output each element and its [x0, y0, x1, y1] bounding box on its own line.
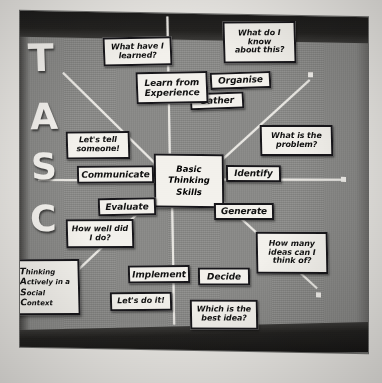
card-line: best idea? [197, 315, 252, 324]
card-label: Decide [207, 271, 241, 281]
card-label: Evaluate [105, 201, 149, 212]
acronym-rest-c: ontext [27, 299, 53, 307]
card-line: I do? [72, 234, 129, 243]
card-line: think of? [268, 257, 315, 266]
spoke-cap-east [341, 177, 346, 182]
acronym-letter-s: S [30, 149, 57, 185]
card-organise[interactable]: Organise [210, 71, 272, 90]
card-line: learned? [111, 51, 164, 61]
hub-line-2: Thinking [168, 175, 210, 185]
board-right-shadow [356, 17, 368, 353]
card-line: problem? [271, 140, 322, 149]
card-label: Communicate [81, 169, 149, 179]
card-label: Implement [132, 269, 186, 280]
spoke-cap-southeast [316, 292, 321, 297]
card-implement[interactable]: Implement [128, 265, 190, 284]
spoke-cap-northeast [308, 72, 313, 77]
card-what-do-i-know[interactable]: What do I know about this? [222, 21, 296, 64]
card-line: Experience [145, 87, 200, 98]
acronym-letter-t: T [27, 39, 54, 77]
acronym-line-social: Social [20, 288, 74, 298]
card-what-is-the-problem[interactable]: What is the problem? [260, 125, 334, 156]
acronym-letter-a: A [29, 99, 58, 135]
hub-basic-thinking-skills[interactable]: Basic Thinking Skills [154, 154, 225, 209]
card-label: Generate [221, 206, 267, 216]
acronym-letter-c: C [29, 201, 57, 237]
card-identify[interactable]: Identify [226, 165, 281, 182]
card-what-have-i-learned[interactable]: What have I learned? [102, 36, 172, 66]
card-line: someone! [76, 145, 120, 154]
acronym-expansion-card[interactable]: Thinking Actively in a Social Context [20, 259, 81, 315]
card-how-well-did-i-do[interactable]: How well did I do? [66, 219, 135, 248]
acronym-line-thinking: Thinking [20, 267, 74, 277]
card-communicate[interactable]: Communicate [77, 165, 154, 183]
card-lets-tell-someone[interactable]: Let's tell someone! [66, 131, 131, 160]
card-line: Let's do it! [117, 297, 165, 306]
acronym-rest-s: ocial [27, 289, 46, 297]
display-board: T A S C Thinking Actively in a Social Co… [20, 11, 368, 354]
card-learn-from-experience[interactable]: Learn from Experience [135, 71, 208, 104]
card-label: Identify [234, 169, 273, 179]
card-how-many-ideas[interactable]: How many ideas can I think of? [256, 232, 329, 274]
hub-line-3: Skills [176, 186, 202, 196]
acronym-rest-a: ctively in a [27, 278, 70, 286]
acronym-line-context: Context [20, 298, 74, 308]
card-evaluate[interactable]: Evaluate [98, 197, 157, 216]
card-lets-do-it[interactable]: Let's do it! [110, 292, 173, 312]
acronym-line-actively: Actively in a [20, 277, 74, 287]
hub-line-1: Basic [176, 164, 201, 174]
tasc-wheel-photograph: T A S C Thinking Actively in a Social Co… [0, 0, 382, 383]
card-label: Organise [218, 75, 263, 87]
acronym-rest-t: hinking [26, 268, 56, 276]
card-which-is-best-idea[interactable]: Which is the best idea? [190, 300, 259, 330]
card-generate[interactable]: Generate [214, 203, 274, 220]
card-line: about this? [235, 47, 285, 56]
card-decide[interactable]: Decide [198, 268, 250, 286]
